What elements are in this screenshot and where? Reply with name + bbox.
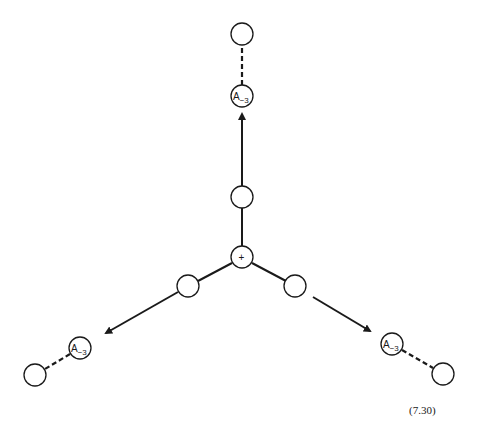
arrow-left <box>106 292 178 333</box>
dynkin-diagram: A−3 A−3 A−3 + <box>0 0 478 437</box>
arrow-right <box>313 297 370 331</box>
center-plus-label: + <box>239 252 245 263</box>
node-left-outer <box>24 364 46 386</box>
node-left-inner <box>177 275 199 297</box>
bond-center-left <box>198 263 232 281</box>
dashed-bond-left <box>45 354 70 369</box>
node-up-inner <box>231 186 253 208</box>
node-up-outer <box>231 23 253 45</box>
node-right-inner <box>284 275 306 297</box>
node-right-outer <box>432 363 454 385</box>
bond-center-right <box>252 263 286 281</box>
equation-number: (7.30) <box>409 404 436 416</box>
dashed-bond-right <box>402 350 433 368</box>
